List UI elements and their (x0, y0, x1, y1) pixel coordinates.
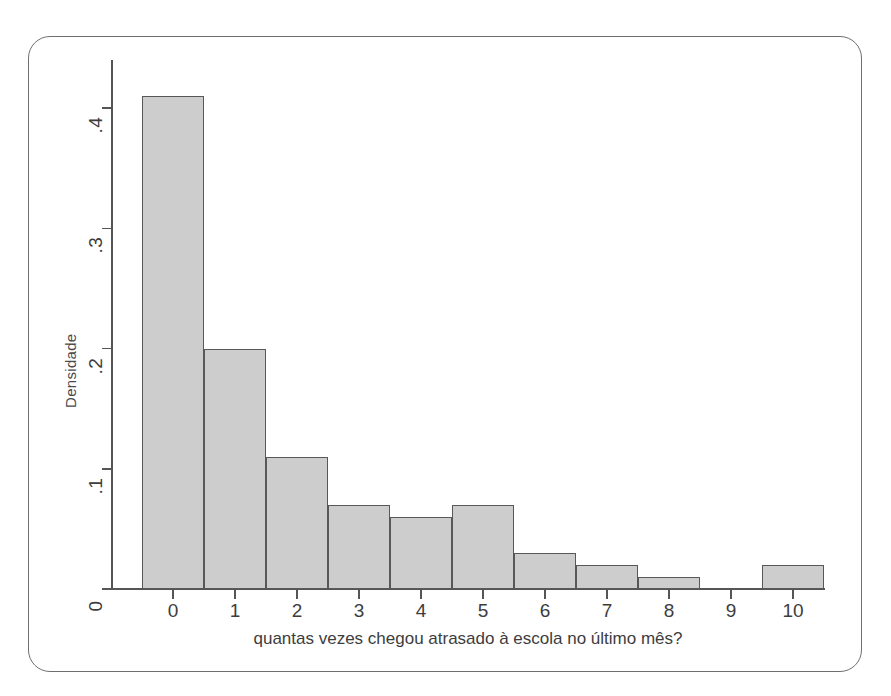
histogram-bar (576, 565, 638, 589)
x-tick-mark (172, 589, 174, 599)
x-tick-label: 0 (153, 600, 193, 622)
histogram-bar (266, 457, 328, 589)
x-tick-mark (730, 589, 732, 599)
histogram-bar (452, 505, 514, 589)
histogram-bar (204, 349, 266, 589)
x-tick-mark (606, 589, 608, 599)
histogram-bar (328, 505, 390, 589)
y-axis-title: Densidade (62, 334, 79, 408)
y-tick-label: .2 (85, 348, 107, 384)
histogram-bar (514, 553, 576, 589)
y-tick-label: .4 (85, 107, 107, 143)
histogram-bar (762, 565, 824, 589)
x-tick-label: 3 (339, 600, 379, 622)
x-tick-mark (668, 589, 670, 599)
x-tick-label: 1 (215, 600, 255, 622)
y-tick-label: .3 (85, 227, 107, 263)
x-tick-label: 2 (277, 600, 317, 622)
x-tick-mark (420, 589, 422, 599)
x-tick-mark (544, 589, 546, 599)
x-tick-mark (482, 589, 484, 599)
x-tick-label: 5 (463, 600, 503, 622)
y-axis-line (111, 60, 113, 590)
x-tick-mark (234, 589, 236, 599)
x-tick-mark (358, 589, 360, 599)
x-tick-mark (792, 589, 794, 599)
y-tick-label: .1 (85, 468, 107, 504)
x-tick-label: 8 (649, 600, 689, 622)
x-tick-label: 6 (525, 600, 565, 622)
x-tick-label: 7 (587, 600, 627, 622)
histogram-plot-area: 0.1.2.3.4 012345678910 Densidade quantas… (0, 0, 891, 696)
x-axis-title: quantas vezes chegou atrasado à escola n… (111, 629, 825, 649)
histogram-bar (390, 517, 452, 589)
figure-root: 0.1.2.3.4 012345678910 Densidade quantas… (0, 0, 891, 696)
x-tick-label: 10 (773, 600, 813, 622)
x-tick-label: 9 (711, 600, 751, 622)
histogram-bar (638, 577, 700, 589)
histogram-bar (142, 96, 204, 589)
x-tick-mark (296, 589, 298, 599)
x-tick-label: 4 (401, 600, 441, 622)
y-tick-label: 0 (85, 588, 107, 624)
